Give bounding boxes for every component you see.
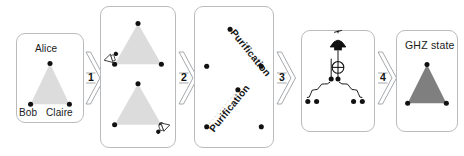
arrow-step-2-number: 2 (181, 71, 187, 83)
fusion-circuit-graphic (302, 31, 374, 131)
arrow-step-1-number: 1 (88, 71, 94, 83)
node-p2 (204, 64, 209, 69)
arrow-step-4-number: 4 (380, 71, 386, 83)
figure-canvas: Alice Bob Claire 1 (0, 0, 464, 156)
cnot-target-icon (332, 62, 344, 74)
node-center-left (329, 77, 334, 82)
bell-pair-triangle-lower (115, 84, 162, 125)
node-bob (28, 102, 33, 107)
bell-pairs-graphic (101, 7, 175, 147)
panel-ghz-state: GHZ state (396, 30, 458, 132)
ghz-node-left (405, 101, 410, 106)
parties-triangle (31, 63, 70, 104)
node-claire (67, 102, 72, 107)
wavy-link-left (307, 82, 330, 98)
panel-fusion-circuit (301, 30, 375, 132)
ghz-triangle (408, 65, 447, 104)
ghz-node-top (424, 62, 429, 67)
node-bottom-2 (314, 99, 319, 104)
node-upper-right (159, 62, 164, 67)
node-p6 (259, 124, 264, 129)
node-lower-left (112, 122, 117, 127)
panel-bell-pairs (100, 6, 176, 148)
node-alice (47, 61, 52, 66)
arrow-step-3-number: 3 (279, 71, 285, 83)
bell-pair-triangle-upper (115, 23, 162, 64)
node-center-right (335, 77, 340, 82)
wavy-link-right (339, 82, 362, 98)
panel-parties: Alice Bob Claire (16, 33, 84, 123)
node-upper-apex (135, 21, 140, 26)
label-bob: Bob (19, 107, 37, 118)
node-lower-apex (135, 81, 140, 86)
panel-purification: Purification Purification (194, 6, 274, 148)
label-alice: Alice (35, 43, 57, 54)
node-bottom-3 (351, 99, 356, 104)
node-bottom-1 (305, 99, 310, 104)
detector-icon (330, 30, 346, 50)
label-claire: Claire (46, 107, 73, 118)
node-bottom-4 (360, 99, 365, 104)
ghz-graphic (397, 31, 457, 131)
ghz-node-right (444, 101, 449, 106)
